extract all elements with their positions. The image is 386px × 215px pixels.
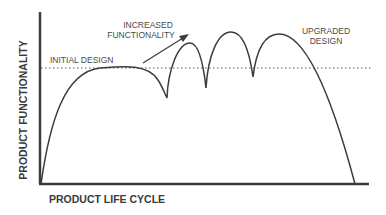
x-axis-label: PRODUCT LIFE CYCLE: [49, 193, 165, 205]
increased-functionality-label-line1: INCREASED: [123, 20, 173, 30]
y-axis-label: PRODUCT FUNCTIONALITY: [17, 40, 29, 179]
arrow-head-icon: [179, 34, 189, 42]
product-lifecycle-diagram: INITIAL DESIGN INCREASED FUNCTIONALITY U…: [0, 0, 386, 215]
initial-design-label: INITIAL DESIGN: [50, 55, 113, 65]
upgraded-design-label-line2: DESIGN: [310, 36, 343, 46]
upgraded-design-label-line1: UPGRADED: [302, 26, 350, 36]
increased-functionality-label-line2: FUNCTIONALITY: [107, 30, 175, 40]
increase-arrow-shaft: [143, 38, 183, 63]
